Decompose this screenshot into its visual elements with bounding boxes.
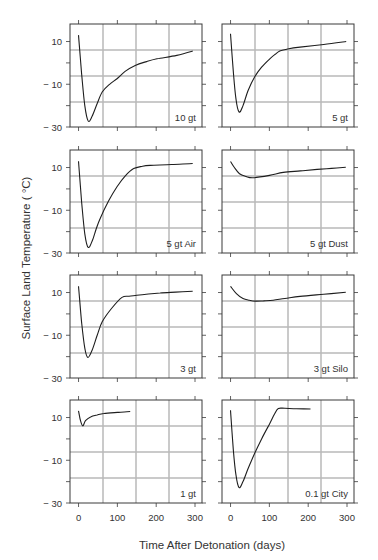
panel-10-gt: 10− 10− 3010 gt bbox=[43, 20, 206, 133]
x-tick-label: 0 bbox=[228, 512, 233, 523]
panel-3-gt: 10− 10− 303 gt bbox=[43, 271, 206, 384]
x-tick-label: 100 bbox=[109, 512, 125, 523]
panel-label: 5 gt bbox=[332, 112, 348, 123]
temperature-curve bbox=[231, 408, 311, 488]
x-tick-label: 200 bbox=[300, 512, 316, 523]
y-tick-label: − 10 bbox=[43, 455, 62, 466]
y-tick-label: − 30 bbox=[43, 122, 62, 133]
y-tick-label: − 10 bbox=[43, 205, 62, 216]
temperature-curve bbox=[79, 411, 131, 426]
y-tick-label: 10 bbox=[51, 36, 62, 47]
y-tick-label: − 30 bbox=[43, 248, 62, 259]
y-axis-title: Surface Land Temperature ( °C) bbox=[20, 177, 32, 340]
y-tick-label: − 30 bbox=[43, 373, 62, 384]
x-tick-label: 100 bbox=[261, 512, 277, 523]
x-tick-label: 200 bbox=[148, 512, 164, 523]
panel-3-gt-silo: 3 gt Silo bbox=[218, 271, 358, 382]
panel-label: 0.1 gt City bbox=[305, 488, 348, 499]
y-tick-label: − 10 bbox=[43, 79, 62, 90]
x-tick-label: 0 bbox=[76, 512, 81, 523]
panel-5-gt: 5 gt bbox=[218, 20, 358, 131]
panel-5-gt-dust: 5 gt Dust bbox=[218, 146, 358, 257]
panel-1-gt: 010020030010− 10− 301 gt bbox=[43, 396, 206, 523]
y-tick-label: − 10 bbox=[43, 330, 62, 341]
panel-label: 3 gt bbox=[180, 363, 196, 374]
panel-label: 3 gt Silo bbox=[314, 363, 348, 374]
plot-canvas: 10− 10− 3010 gt5 gt10− 10− 305 gt Air5 g… bbox=[0, 0, 378, 560]
panel-label: 1 gt bbox=[180, 488, 196, 499]
panel-label: 10 gt bbox=[175, 112, 196, 123]
y-tick-label: 10 bbox=[51, 287, 62, 298]
y-tick-label: 10 bbox=[51, 162, 62, 173]
y-tick-label: 10 bbox=[51, 412, 62, 423]
panel-5-gt-air: 10− 10− 305 gt Air bbox=[43, 146, 206, 259]
x-tick-label: 300 bbox=[339, 512, 355, 523]
x-axis-title: Time After Detonation (days) bbox=[139, 539, 285, 551]
panel-0-1-gt-city: 01002003000.1 gt City bbox=[218, 396, 358, 523]
panel-label: 5 gt Air bbox=[166, 238, 196, 249]
panel-label: 5 gt Dust bbox=[310, 238, 348, 249]
x-tick-label: 300 bbox=[187, 512, 203, 523]
y-tick-label: − 30 bbox=[43, 498, 62, 509]
multi-panel-figure: 10− 10− 3010 gt5 gt10− 10− 305 gt Air5 g… bbox=[0, 0, 378, 560]
